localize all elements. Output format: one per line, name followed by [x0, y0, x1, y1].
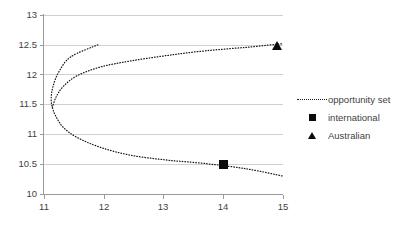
chart-legend: opportunity set international Australian [296, 90, 408, 144]
x-tick-mark [283, 195, 284, 199]
legend-label: international [328, 112, 380, 123]
chart-container: 13 12.5 12 11.5 11 10.5 10 11 12 13 14 1… [0, 0, 411, 230]
x-tick-label: 13 [148, 201, 178, 212]
y-tick-label: 10.5 [3, 159, 37, 169]
data-point-australian[interactable] [272, 41, 282, 50]
y-tick-label: 11 [3, 129, 37, 139]
y-tick-label: 13 [3, 10, 37, 20]
legend-label: Australian [328, 130, 370, 141]
triangle-marker-icon [296, 132, 328, 139]
dotted-line-icon [296, 99, 328, 100]
data-point-international[interactable] [219, 160, 228, 169]
x-tick-label: 11 [29, 201, 59, 212]
x-tick-mark [163, 195, 164, 199]
opportunity-set-curve [44, 15, 283, 194]
legend-item-international[interactable]: international [296, 108, 408, 126]
plot-area [44, 15, 283, 194]
x-tick-label: 15 [268, 201, 298, 212]
square-marker-icon [296, 114, 328, 121]
x-tick-label: 12 [89, 201, 119, 212]
x-tick-label: 14 [208, 201, 238, 212]
x-tick-mark [223, 195, 224, 199]
y-tick-label: 12.5 [3, 40, 37, 50]
y-tick-label: 10 [3, 189, 37, 199]
legend-item-opportunity-set[interactable]: opportunity set [296, 90, 408, 108]
y-axis-tick-labels: 13 12.5 12 11.5 11 10.5 10 [0, 0, 37, 230]
legend-item-australian[interactable]: Australian [296, 126, 408, 144]
x-tick-mark [104, 195, 105, 199]
legend-label: opportunity set [328, 94, 390, 105]
y-tick-label: 12 [3, 70, 37, 80]
y-tick-label: 11.5 [3, 99, 37, 109]
x-tick-mark [44, 195, 45, 199]
